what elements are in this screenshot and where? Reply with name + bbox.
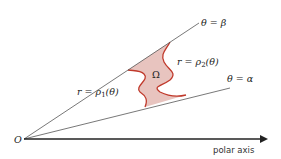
- inner-curve-label: r = ρ1(θ): [77, 86, 119, 99]
- outer-curve-label: r = ρ2(θ): [177, 56, 219, 69]
- ray-beta-label: θ = β: [201, 17, 227, 28]
- ray-alpha-label: θ = α: [227, 73, 254, 84]
- polar-region-diagram: O polar axis θ = β θ = α r = ρ1(θ) r = ρ…: [0, 0, 281, 159]
- region-label: Ω: [152, 69, 160, 80]
- ray-theta-alpha: [24, 88, 230, 139]
- polar-axis-label: polar axis: [213, 145, 255, 155]
- ray-theta-beta: [24, 23, 199, 139]
- origin-label: O: [14, 134, 22, 145]
